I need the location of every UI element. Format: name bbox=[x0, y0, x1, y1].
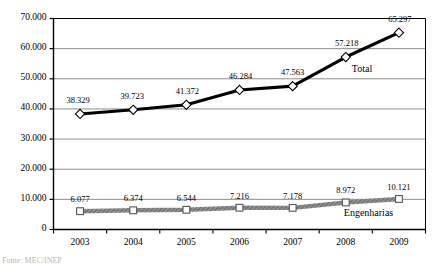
engenharias-data-label: 7.216 bbox=[218, 191, 262, 201]
engenharias-marker bbox=[236, 204, 243, 211]
chart-source-caption: Fonte: MEC/INEP bbox=[2, 256, 152, 266]
total-data-label: 65.297 bbox=[378, 14, 422, 24]
engenharias-marker bbox=[342, 199, 349, 206]
total-data-label: 39.723 bbox=[110, 91, 154, 101]
x-axis-tick-label: 2004 bbox=[107, 237, 160, 247]
y-axis-tick-label: 70.000 bbox=[0, 12, 47, 22]
total-data-label: 41.372 bbox=[165, 86, 209, 96]
x-axis-tick-label: 2007 bbox=[266, 237, 319, 247]
x-axis-tick-label: 2009 bbox=[372, 237, 425, 247]
y-axis-tick-label: 0 bbox=[0, 223, 47, 233]
y-axis-tick-label: 10.000 bbox=[0, 193, 47, 203]
total-marker bbox=[235, 85, 244, 94]
total-marker bbox=[129, 105, 138, 114]
y-axis-tick-label: 40.000 bbox=[0, 102, 47, 112]
x-axis-tick-label: 2008 bbox=[319, 237, 372, 247]
total-marker bbox=[182, 100, 191, 109]
engenharias-data-label: 6.374 bbox=[111, 193, 155, 203]
total-data-label: 57.218 bbox=[325, 38, 369, 48]
engenharias-marker bbox=[396, 196, 403, 203]
line-chart: 010.00020.00030.00040.00050.00060.00070.… bbox=[0, 0, 433, 266]
engenharias-data-label: 7.178 bbox=[271, 191, 315, 201]
series-label-total: Total bbox=[352, 63, 372, 74]
x-axis-tick-label: 2005 bbox=[160, 237, 213, 247]
series-label-engenharias: Engenharias bbox=[344, 207, 393, 218]
engenharias-marker bbox=[183, 206, 190, 213]
total-data-label: 46.284 bbox=[219, 71, 263, 81]
engenharias-data-label: 8.972 bbox=[324, 185, 368, 195]
engenharias-data-label: 6.077 bbox=[58, 194, 102, 204]
y-axis-tick-label: 50.000 bbox=[0, 72, 47, 82]
total-marker bbox=[394, 28, 403, 37]
engenharias-marker bbox=[77, 208, 84, 215]
engenharias-data-label: 6.544 bbox=[164, 193, 208, 203]
x-axis-tick-label: 2003 bbox=[54, 237, 107, 247]
y-axis-tick-label: 20.000 bbox=[0, 163, 47, 173]
engenharias-data-label: 10.121 bbox=[377, 182, 421, 192]
total-data-label: 47.563 bbox=[271, 67, 315, 77]
x-axis-tick-label: 2006 bbox=[213, 237, 266, 247]
y-axis-tick-label: 60.000 bbox=[0, 42, 47, 52]
total-marker bbox=[75, 109, 84, 118]
engenharias-marker bbox=[289, 204, 296, 211]
engenharias-marker bbox=[130, 207, 137, 214]
total-data-label: 38.329 bbox=[56, 95, 100, 105]
y-axis-tick-label: 30.000 bbox=[0, 133, 47, 143]
